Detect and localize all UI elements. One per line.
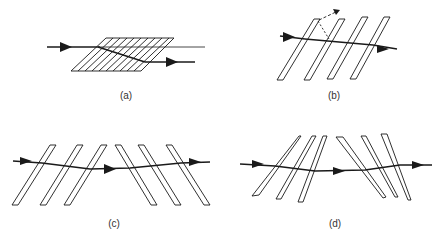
panel-label-d: (d): [320, 218, 350, 229]
arrow-icon: [252, 160, 264, 168]
arrow-icon: [20, 157, 32, 165]
arrow-icon: [189, 158, 201, 166]
panel-label-c: (c): [99, 218, 129, 229]
panel-label-b: (b): [319, 90, 349, 101]
panel-b: [277, 9, 397, 80]
arrow-icon: [333, 167, 345, 175]
panel-a: [47, 38, 205, 71]
arrow-icon: [104, 164, 116, 174]
pile-of-plates-diagram: [0, 0, 444, 234]
arrow-icon: [60, 42, 72, 52]
arrow-icon: [283, 32, 295, 42]
arrow-icon: [166, 57, 178, 67]
panel-c: [12, 145, 210, 205]
panel-d: [240, 134, 432, 202]
arrow-icon: [412, 161, 424, 169]
panel-label-a: (a): [111, 90, 141, 101]
